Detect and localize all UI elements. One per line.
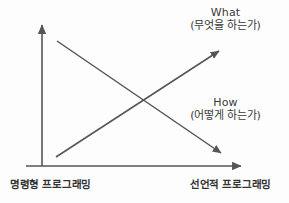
what-subtitle: (무엇을 하는가): [178, 20, 273, 33]
what-annotation: What (무엇을 하는가): [178, 7, 273, 32]
how-subtitle: (어떻게 하는가): [178, 110, 273, 123]
how-annotation: How (어떻게 하는가): [178, 97, 273, 122]
what-title: What: [178, 7, 273, 20]
how-title: How: [178, 97, 273, 110]
x-axis-label-imperative: 명령형 프로그래밍: [10, 176, 91, 191]
diagram-canvas: What (무엇을 하는가) How (어떻게 하는가) 명령형 프로그래밍 선…: [0, 0, 289, 203]
x-axis-label-declarative: 선언적 프로그래밍: [190, 176, 271, 191]
